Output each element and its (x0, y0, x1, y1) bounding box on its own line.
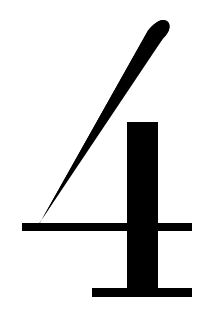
vertical-stem (127, 122, 158, 288)
digit-four-glyph (0, 0, 210, 329)
crossbar (22, 223, 192, 231)
glyph-canvas: 4 (0, 0, 210, 329)
background-rect (0, 0, 210, 329)
foot-serif (92, 288, 192, 297)
